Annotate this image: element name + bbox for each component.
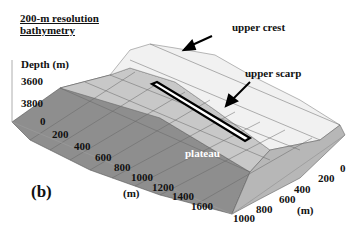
y-tick: 400	[294, 183, 311, 195]
x-tick: 600	[95, 151, 112, 163]
y-tick: 0	[340, 162, 346, 174]
annotation-upper-scarp: upper scarp	[245, 67, 301, 79]
upper-crest-arrow-icon	[184, 41, 195, 50]
panel-label: (b)	[31, 182, 52, 202]
x-axis-unit: (m)	[123, 187, 140, 199]
y-axis-unit: (m)	[297, 204, 314, 216]
x-tick: 800	[114, 161, 131, 173]
x-tick: 1200	[152, 181, 174, 193]
x-tick: 400	[74, 140, 91, 152]
y-tick: 200	[318, 172, 335, 184]
z-axis-label: Depth (m)	[21, 58, 69, 70]
z-tick: 3800	[21, 97, 43, 109]
x-tick: 1000	[131, 171, 153, 183]
y-tick: 1000	[233, 212, 255, 224]
z-tick: 0	[40, 115, 46, 127]
x-tick: 1600	[191, 200, 213, 212]
annotation-upper-crest: upper crest	[232, 21, 285, 33]
annotation-plateau: plateau	[185, 147, 220, 159]
z-tick: 3600	[21, 75, 43, 87]
y-tick: 600	[279, 193, 296, 205]
y-tick: 800	[256, 203, 273, 215]
x-tick: 200	[52, 128, 69, 140]
